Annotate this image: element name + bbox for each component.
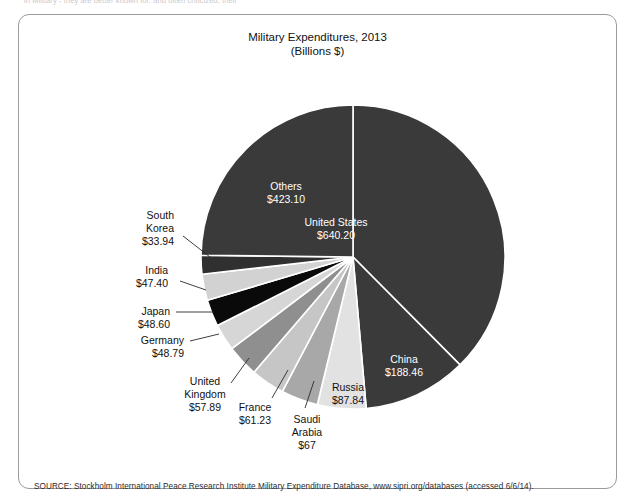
pie-label-japan: Japan $48.60 — [62, 305, 170, 331]
pie-label-united-states-value: $640.20 — [256, 229, 416, 242]
pie-label-others-value: $423.10 — [226, 193, 346, 206]
pie-label-south-korea-name: South — [62, 209, 174, 222]
pie-label-china-name: China — [349, 353, 459, 366]
leader-line-india — [180, 281, 206, 290]
pie-label-united-states-name: United States — [256, 216, 416, 229]
pie-label-others-name: Others — [226, 180, 346, 193]
pie-label-saudi-arabia-name2: Arabia — [262, 426, 352, 439]
pie-label-india-value: $47.40 — [56, 277, 168, 290]
pie-label-japan-name: Japan — [62, 305, 170, 318]
pie-label-south-korea: South Korea $33.94 — [62, 209, 174, 248]
pie-label-germany: Germany $48.79 — [66, 334, 184, 360]
pie-label-russia-name: Russia — [298, 381, 398, 394]
pie-label-france-value: $61.23 — [210, 414, 300, 427]
pie-label-united-kingdom-name: United — [155, 375, 255, 388]
pie-label-china-value: $188.46 — [349, 366, 459, 379]
source-note: SOURCE: Stockholm International Peace Re… — [34, 481, 534, 492]
pie-label-south-korea-value: $33.94 — [62, 235, 174, 248]
pie-label-india: India $47.40 — [56, 264, 168, 290]
pie-label-china: China $188.46 — [349, 353, 459, 379]
pie-label-russia: Russia $87.84 — [298, 381, 398, 407]
pie-label-japan-value: $48.60 — [62, 318, 170, 331]
pie-label-india-name: India — [56, 264, 168, 277]
pie-label-south-korea-name2: Korea — [62, 222, 174, 235]
leader-line-germany — [190, 334, 219, 341]
pie-label-saudi-arabia-value: $67 — [262, 439, 352, 452]
pie-label-others: Others $423.10 — [226, 180, 346, 206]
pie-label-united-states: United States $640.20 — [256, 216, 416, 242]
pie-label-united-kingdom: United Kingdom $57.89 — [155, 375, 255, 414]
pie-label-russia-value: $87.84 — [298, 394, 398, 407]
pie-label-germany-value: $48.79 — [66, 347, 184, 360]
pie-label-united-kingdom-name2: Kingdom — [155, 388, 255, 401]
pie-label-germany-name: Germany — [66, 334, 184, 347]
pie-label-united-kingdom-value: $57.89 — [155, 401, 255, 414]
